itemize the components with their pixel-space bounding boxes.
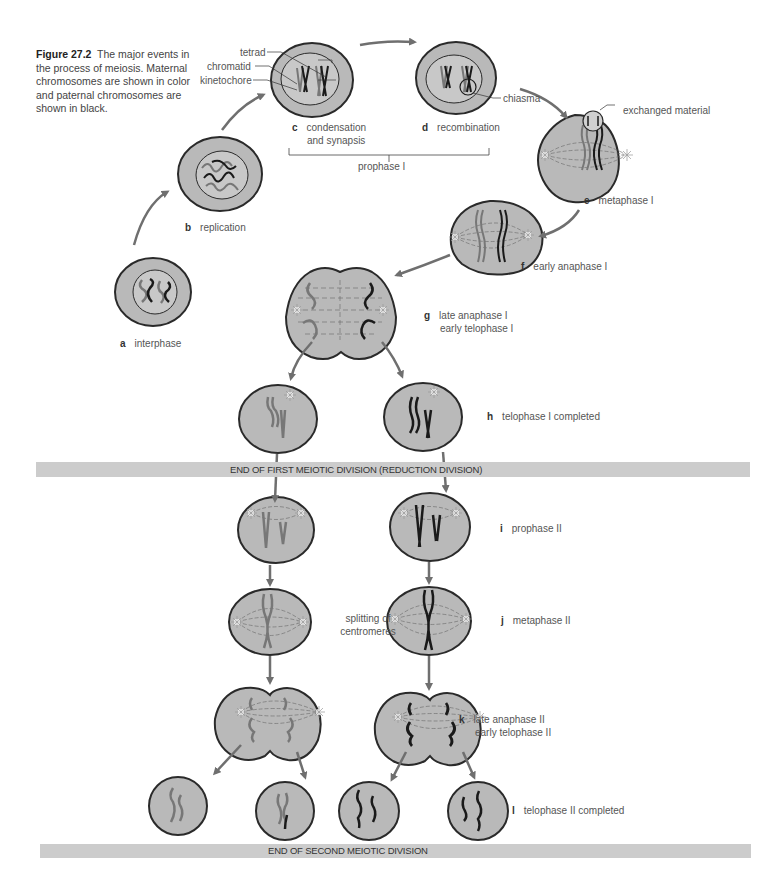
stage-label-a: ainterphase xyxy=(120,337,181,350)
callout-chromatid: chromatid xyxy=(207,60,251,73)
stage-label-h: htelophase I completed xyxy=(487,410,600,423)
cell-metaphase-II-left xyxy=(229,589,311,655)
cell-b-replication xyxy=(178,137,262,211)
callout-splitting-centromeres: splitting of centromeres xyxy=(333,612,403,638)
cell-l-telophase-II-3 xyxy=(339,782,399,840)
cell-c-condensation xyxy=(253,43,353,117)
cell-h-telophase-I-right xyxy=(384,383,462,451)
cell-l-telophase-II-1 xyxy=(149,777,207,835)
band-end-first-division: END OF FIRST MEIOTIC DIVISION (REDUCTION… xyxy=(36,462,750,477)
stage-label-d: drecombination xyxy=(422,121,500,134)
cell-d-recombination xyxy=(416,42,501,114)
stage-label-g: glate anaphase I early telophase I xyxy=(424,309,513,335)
callout-kinetochore: kinetochore xyxy=(200,74,252,87)
cell-l-telophase-II-4 xyxy=(448,782,508,840)
meiosis-diagram xyxy=(0,0,784,889)
stage-label-k: klate anaphase II early telophase II xyxy=(459,713,551,739)
stage-label-b: breplication xyxy=(185,221,246,234)
stage-label-e: emetaphase I xyxy=(584,194,654,207)
callout-exchanged-material: exchanged material xyxy=(623,104,710,117)
callout-tetrad: tetrad xyxy=(240,46,266,59)
cell-h-telophase-I-left xyxy=(239,385,317,453)
stage-label-i: iprophase II xyxy=(500,522,562,535)
stage-label-f: fearly anaphase I xyxy=(521,260,607,273)
cell-e-metaphase-I xyxy=(538,105,633,202)
cell-l-telophase-II-2 xyxy=(256,782,314,840)
cell-i-prophase-II xyxy=(390,493,470,561)
cell-prophase-II-left xyxy=(238,497,314,563)
cell-late-anaphase-II-left xyxy=(215,688,325,760)
stage-label-l: ltelophase II completed xyxy=(512,804,624,817)
callout-prophase-I: prophase I xyxy=(358,160,405,173)
stage-label-c: ccondensation and synapsis xyxy=(292,121,366,147)
callout-chiasma: chiasma xyxy=(503,92,540,105)
cell-g-late-anaphase-I xyxy=(286,268,396,359)
band-end-second-division: END OF SECOND MEIOTIC DIVISION xyxy=(40,844,751,858)
cell-a-interphase xyxy=(115,258,191,326)
stage-label-j: jmetaphase II xyxy=(501,614,571,627)
